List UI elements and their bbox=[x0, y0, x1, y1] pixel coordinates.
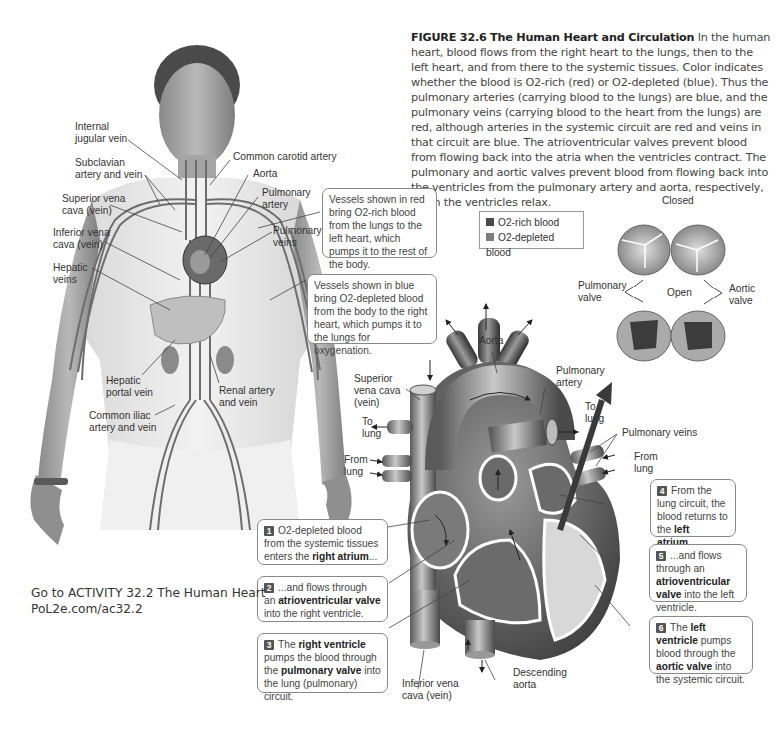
figure-title: The Human Heart and Circulation bbox=[490, 31, 694, 44]
label-aortic-valve: Aorticvalve bbox=[729, 283, 755, 307]
label-inferior-vena-cava-heart: Inferior venacava (vein) bbox=[402, 678, 459, 702]
label-valve-open: Open bbox=[667, 287, 692, 299]
step-4-box: 4From the lung circuit, the blood return… bbox=[650, 479, 736, 537]
step-number-badge: 1 bbox=[264, 526, 274, 536]
activity-link[interactable]: PoL2e.com/ac32.2 bbox=[31, 601, 266, 617]
figure-number: FIGURE 32.6 bbox=[411, 31, 487, 44]
step-2-box: 2...and flows through an atrioventricula… bbox=[257, 576, 388, 622]
label-superior-vena-cava-heart: Superiorvena cava(vein) bbox=[354, 373, 400, 409]
label-aorta-heart: Aorta bbox=[479, 335, 503, 347]
step-1-box: 1O2-depleted blood from the systemic tis… bbox=[257, 519, 388, 565]
label-from-lung-left: Fromlung bbox=[344, 454, 368, 478]
step-5-box: 5...and flows through an atrioventricula… bbox=[649, 544, 747, 602]
o2-depleted-swatch bbox=[486, 233, 494, 241]
legend-item-o2-rich: O2-rich blood bbox=[486, 215, 577, 230]
label-pulmonary-veins-heart: Pulmonary veins bbox=[622, 427, 697, 439]
label-valve-closed: Closed bbox=[662, 195, 694, 207]
label-aorta-body: Aorta bbox=[253, 168, 277, 180]
label-from-lung-right: Fromlung bbox=[634, 451, 658, 475]
label-to-lung-left: Tolung bbox=[362, 416, 381, 440]
label-pulmonary-artery-heart: Pulmonaryartery bbox=[556, 365, 605, 389]
step-6-box: 6The left ventricle pumps blood through … bbox=[649, 616, 753, 674]
label-hepatic-portal-vein: Hepaticportal vein bbox=[106, 375, 153, 399]
activity-title: Go to ACTIVITY 32.2 The Human Heart bbox=[31, 585, 266, 601]
label-internal-jugular: Internaljugular vein bbox=[75, 121, 127, 145]
o2-rich-swatch bbox=[486, 218, 494, 226]
label-hepatic-veins: Hepaticveins bbox=[53, 262, 88, 286]
callout-red-vessels: Vessels shown in red bring O2-rich blood… bbox=[322, 188, 437, 258]
figure-caption: FIGURE 32.6 The Human Heart and Circulat… bbox=[411, 30, 771, 210]
label-inferior-vena-cava: Inferior venacava (vein) bbox=[53, 227, 110, 251]
label-descending-aorta: Descendingaorta bbox=[513, 667, 567, 691]
legend: O2-rich blood O2-depleted blood bbox=[479, 211, 584, 249]
step-number-badge: 3 bbox=[264, 640, 274, 650]
label-to-lung-right: Tolung bbox=[585, 401, 604, 425]
step-3-box: 3The right ventricle pumps the blood thr… bbox=[257, 633, 388, 693]
label-common-carotid: Common carotid artery bbox=[233, 151, 337, 163]
label-subclavian: Subclavianartery and vein bbox=[75, 157, 142, 181]
label-superior-vena-cava: Superior venacava (vein) bbox=[62, 193, 125, 217]
label-renal: Renal arteryand vein bbox=[219, 385, 275, 409]
step-number-badge: 6 bbox=[656, 623, 666, 633]
label-pulmonary-valve: Pulmonaryvalve bbox=[578, 280, 627, 304]
step-number-badge: 5 bbox=[656, 551, 666, 561]
activity-reference: Go to ACTIVITY 32.2 The Human Heart PoL2… bbox=[31, 585, 266, 617]
person-figure bbox=[30, 45, 351, 545]
step-number-badge: 4 bbox=[657, 486, 667, 496]
label-pulmonary-veins-body: Pulmonaryveins bbox=[273, 225, 322, 249]
callout-blue-vessels: Vessels shown in blue bring O2-depleted … bbox=[307, 274, 437, 344]
caption-text: In the human heart, blood flows from the… bbox=[411, 31, 770, 209]
legend-item-o2-depleted: O2-depleted blood bbox=[486, 230, 577, 260]
label-pulmonary-artery-body: Pulmonaryartery bbox=[262, 187, 311, 211]
label-common-iliac: Common iliacartery and vein bbox=[89, 410, 156, 434]
